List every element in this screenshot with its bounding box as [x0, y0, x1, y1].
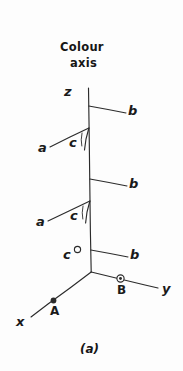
angle-leg-lower — [86, 201, 90, 223]
c-angle-upper-label: c — [69, 136, 77, 149]
figure-caption: (a) — [80, 342, 99, 356]
point-A-label: A — [50, 305, 59, 317]
angle-arc-lower — [82, 206, 83, 219]
colour-axis-figure: Colour axis — [0, 0, 183, 371]
b-branch-top-line — [89, 106, 126, 113]
b-branch-bottom-label: b — [130, 248, 139, 261]
y-axis-label: y — [162, 282, 170, 295]
c-angle-lower-label: c — [70, 209, 78, 222]
b-branch-top-label: b — [128, 104, 137, 117]
b-branch-middle-label: b — [129, 177, 138, 190]
b-branch-bottom-line — [91, 250, 128, 257]
point-C-open-circle-marker — [74, 246, 80, 252]
a-branch-upper-label: a — [38, 141, 47, 154]
angle-arc-upper — [81, 133, 82, 146]
point-B-label: B — [117, 284, 126, 296]
c-origin-label: c — [63, 248, 71, 261]
a-branch-lower-label: a — [36, 215, 45, 228]
b-branch-middle-line — [90, 179, 127, 186]
a-branch-lower-line — [48, 201, 90, 221]
point-B-inner-dot — [119, 277, 122, 280]
axis-diagram-drawing — [0, 0, 183, 371]
point-A-filled-dot — [51, 298, 57, 304]
z-axis-label: z — [64, 85, 72, 98]
x-axis-line — [31, 272, 91, 317]
angle-leg-upper — [85, 128, 89, 150]
z-axis-line — [89, 88, 92, 272]
x-axis-label: x — [16, 315, 24, 328]
